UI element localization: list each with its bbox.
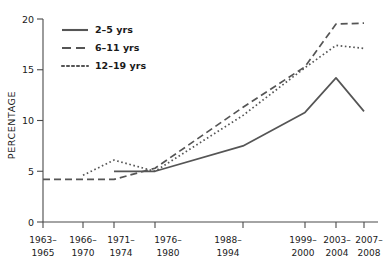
series-group [43,23,364,179]
y-tick-label: 15 [22,64,34,75]
legend-item-12-19-yrs: 12–19 yrs [62,60,146,71]
legend-label: 6–11 yrs [95,42,140,53]
x-tick-label-bottom: 2000 [292,248,315,258]
x-tick-label-top: 1963– [29,235,57,245]
legend-label: 12–19 yrs [95,60,146,71]
x-tick-label-top: 2003– [323,235,351,245]
chart-container: 20 15 10 5 0 PERCENTAGE 1963– 1965 1966–… [0,0,389,274]
x-tick-label-top: 1976– [154,235,182,245]
x-tick-label-bottom: 1994 [217,248,240,258]
legend-item-6-11-yrs: 6–11 yrs [62,42,140,53]
x-tick-label-top: 1966– [69,235,97,245]
x-tick-label-bottom: 1980 [157,248,180,258]
y-axis-ticks: 20 15 10 5 0 [22,14,43,228]
x-tick-label-bottom: 2008 [358,248,381,258]
chart-legend: 2–5 yrs 6–11 yrs 12–19 yrs [62,24,146,71]
y-axis-title: PERCENTAGE [6,91,17,159]
x-axis-ticks: 1963– 1965 1966– 1970 1971– 1974 1976– 1… [29,222,383,258]
line-chart: 20 15 10 5 0 PERCENTAGE 1963– 1965 1966–… [0,0,389,274]
x-tick-label-top: 1971– [107,235,135,245]
y-tick-label: 10 [22,115,34,126]
y-tick-label: 20 [22,14,34,25]
x-tick-label-top: 1999– [289,235,317,245]
legend-item-2-5-yrs: 2–5 yrs [62,24,133,35]
x-tick-label-bottom: 1970 [72,248,95,258]
series-line-2-5-yrs [114,78,364,171]
x-tick-label-top: 2007– [355,235,383,245]
x-tick-label-bottom: 1965 [32,248,55,258]
x-tick-label-top: 1988– [214,235,242,245]
x-tick-label-bottom: 1974 [110,248,133,258]
y-tick-label: 0 [28,217,34,228]
legend-label: 2–5 yrs [95,24,133,35]
y-tick-label: 5 [28,166,34,177]
x-tick-label-bottom: 2004 [326,248,349,258]
